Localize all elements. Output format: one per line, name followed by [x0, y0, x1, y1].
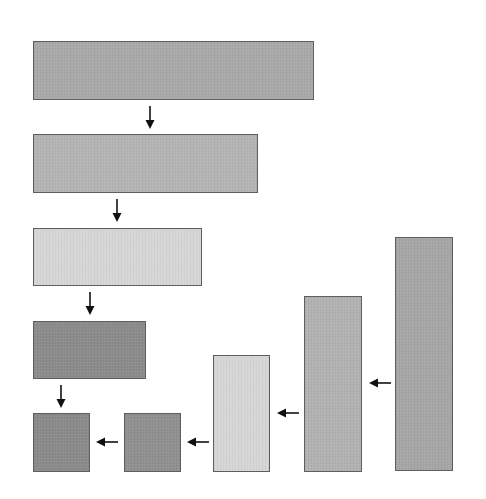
box-8 [304, 296, 362, 472]
arrow-left-icon [187, 437, 209, 447]
box-3 [33, 228, 202, 286]
box-9 [395, 237, 453, 471]
box-6 [124, 413, 181, 472]
box-2 [33, 134, 258, 193]
arrow-left-icon [277, 408, 299, 418]
box-1 [33, 41, 314, 100]
arrow-left-icon [369, 378, 391, 388]
box-5 [33, 413, 90, 472]
arrow-down-icon [112, 199, 122, 222]
arrow-down-icon [56, 385, 66, 408]
box-7 [213, 355, 270, 472]
box-4 [33, 321, 146, 379]
arrow-down-icon [85, 292, 95, 315]
arrow-left-icon [96, 437, 118, 447]
arrow-down-icon [145, 106, 155, 129]
